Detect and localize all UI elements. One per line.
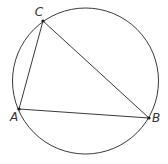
vertex-b-label: B: [152, 111, 160, 125]
vertex-c-label: C: [35, 5, 44, 19]
segment-ca: [19, 21, 43, 109]
vertex-c-point: [41, 19, 44, 22]
circumscribed-circle: [13, 8, 159, 154]
segment-bc: [43, 21, 149, 118]
diagram-canvas: A B C: [0, 0, 168, 164]
geometry-figure: A B C: [0, 0, 168, 164]
vertex-a-label: A: [9, 110, 18, 124]
vertex-b-point: [147, 116, 150, 119]
segment-ab: [19, 109, 149, 118]
